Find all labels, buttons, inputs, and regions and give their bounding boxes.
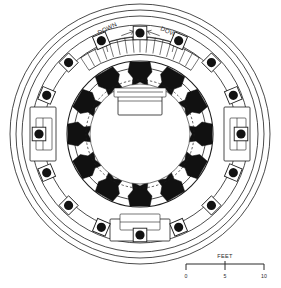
scale-units-label: FEET [217, 253, 233, 259]
scale-tick-label-0: 0 [185, 273, 188, 279]
column [234, 127, 248, 141]
plan-svg: DOWN DOWN [0, 0, 281, 288]
scale-tick-label-10: 10 [261, 273, 267, 279]
column [32, 127, 46, 141]
column [133, 228, 147, 242]
floor-plan-drawing: DOWN DOWN [0, 0, 281, 288]
fixture-body [118, 95, 162, 115]
fixture-head [114, 88, 166, 97]
central-top-fixture [114, 88, 166, 115]
scale-tick-label-5: 5 [224, 273, 227, 279]
column [133, 26, 147, 40]
